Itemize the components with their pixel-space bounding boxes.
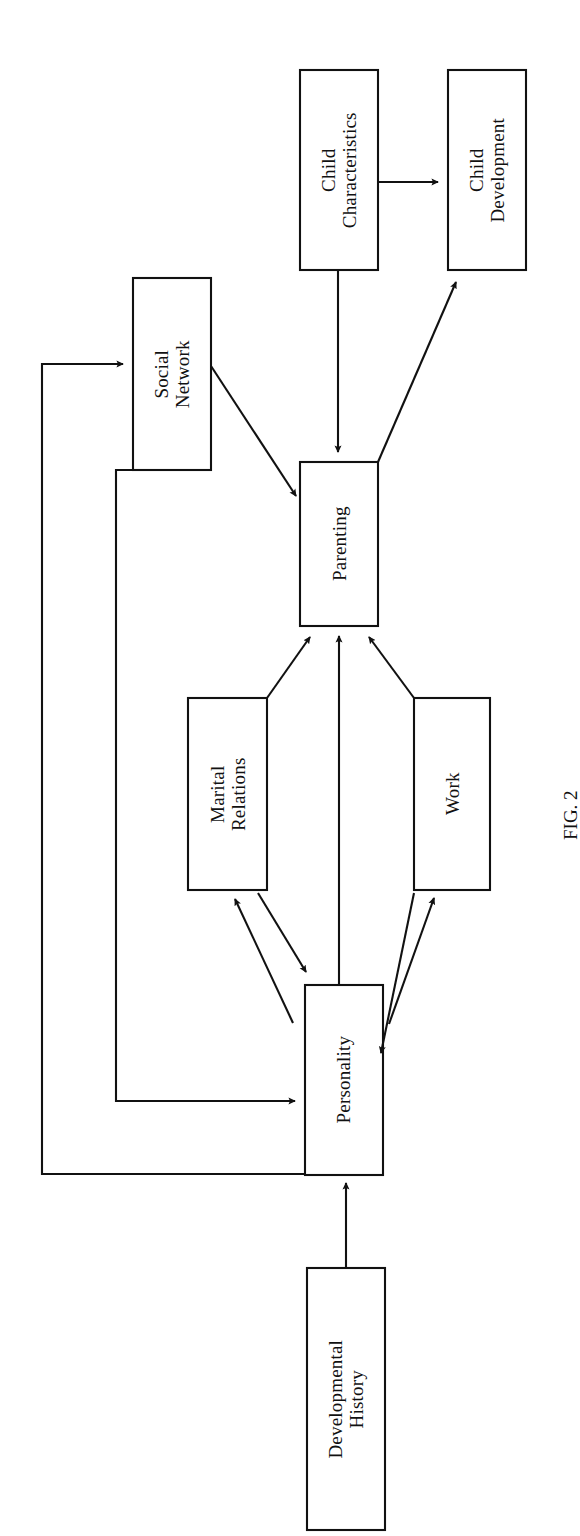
node-child-development[interactable]: Child Development — [448, 70, 526, 270]
node-personality[interactable]: Personality — [305, 985, 383, 1175]
edge-marital-relations-to-parenting — [267, 637, 310, 698]
node-social-network[interactable]: Social Network — [133, 278, 211, 470]
edge-personality-to-marital-relations — [235, 899, 293, 1023]
node-label-personality: Personality — [333, 1036, 354, 1124]
edge-marital-relations-to-personality — [258, 893, 306, 972]
figure-root: Child Characteristics Child Development … — [0, 0, 580, 1536]
node-marital-relations[interactable]: Marital Relations — [188, 698, 267, 890]
node-label-developmental-history: Developmental History — [325, 1340, 368, 1459]
edge-work-to-personality — [381, 893, 414, 1053]
node-developmental-history[interactable]: Developmental History — [307, 1268, 385, 1530]
edge-social-network-to-parenting — [211, 366, 296, 496]
node-label-work: Work — [441, 773, 462, 816]
edge-parenting-to-child-development — [378, 282, 456, 462]
figure-caption: FIG. 2 — [560, 790, 580, 840]
node-child-characteristics[interactable]: Child Characteristics — [300, 70, 378, 270]
node-label-marital-relations: Marital Relations — [206, 757, 249, 831]
edge-work-to-parenting — [369, 637, 414, 698]
node-parenting[interactable]: Parenting — [300, 462, 378, 626]
node-label-social-network: Social Network — [151, 340, 194, 408]
edge-personality-to-work — [389, 898, 434, 1024]
node-label-child-development: Child Development — [466, 118, 509, 223]
node-label-child-characteristics: Child Characteristics — [318, 112, 361, 228]
node-work[interactable]: Work — [414, 698, 490, 890]
node-label-parenting: Parenting — [328, 507, 349, 582]
